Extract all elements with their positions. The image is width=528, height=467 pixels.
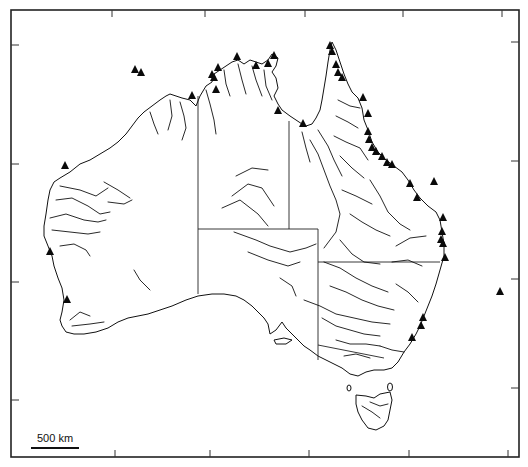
map-figure: 500 km [0,0,528,467]
triangle-marker-icon [430,177,438,185]
kangaroo-island [274,338,292,344]
triangle-marker-icon [61,161,69,169]
triangle-marker-icon [214,63,222,71]
triangle-marker-icon [439,213,447,221]
scale-bar [31,447,79,449]
king-island [347,385,351,391]
scale-bar-label: 500 km [37,432,73,444]
flinders-island [388,383,393,391]
triangle-marker-icon [496,287,504,295]
triangle-marker-icon [359,93,367,101]
mainland-coastline [44,42,444,376]
triangle-marker-icon [188,91,196,99]
triangle-marker-icon [364,109,372,117]
triangle-marker-icon [233,52,241,60]
triangle-marker-icon [131,65,139,73]
tasmania-coastline [356,392,392,430]
australia-map [0,0,528,467]
